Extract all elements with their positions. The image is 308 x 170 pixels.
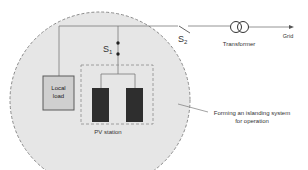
transformer-coil-right-icon [238,22,249,33]
switch-s1-top-contact-icon [116,41,119,44]
transformer-coil-left-icon [231,22,242,33]
transformer-label: Transformer [223,41,255,47]
local-load-label-line1: Local [51,85,65,91]
diagram-canvas: S1 S2 Transformer Grid Local load PV sta… [0,0,308,170]
local-load-label-line2: load [53,93,64,99]
annotation-label-line1: Forming an islanding system [214,110,290,116]
pv-panel-right-icon [126,88,143,122]
pv-panel-left-icon [92,88,109,122]
grid-arrow-icon [289,25,294,29]
switch-s2-icon [179,26,190,33]
switch-s1-bottom-contact-icon [116,52,119,55]
islanding-diagram: S1 S2 Transformer Grid Local load PV sta… [0,0,308,170]
switch-s2-label: S2 [178,34,188,45]
grid-label: Grid [283,33,293,39]
pv-station-label: PV station [94,129,121,135]
annotation-label-line2: for operation [235,118,269,124]
